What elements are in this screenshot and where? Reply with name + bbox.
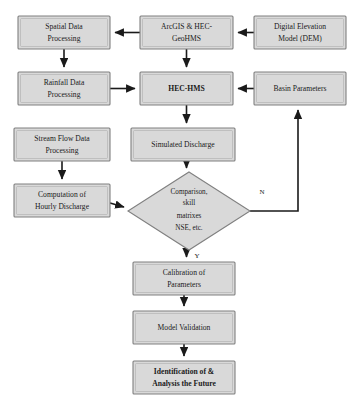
decision-label-line: skill <box>183 199 195 207</box>
node-spatial-data-processing[interactable]: Spatial Data Processing <box>18 16 110 49</box>
flowchart-diagram: Spatial Data Processing ArcGIS & HEC- Ge… <box>0 0 359 409</box>
flowchart-canvas: Spatial Data Processing ArcGIS & HEC- Ge… <box>0 0 359 409</box>
node-basin-parameters[interactable]: Basin Parameters <box>254 72 346 105</box>
edge-label-no: N <box>259 188 264 196</box>
nodes-layer: Spatial Data Processing ArcGIS & HEC- Ge… <box>14 16 346 394</box>
node-arcgis-hec-geohms[interactable]: ArcGIS & HEC- GeoHMS <box>140 16 233 49</box>
node-simulated-discharge[interactable]: Simulated Discharge <box>131 128 235 161</box>
node-stream-flow-data-processing[interactable]: Stream Flow Data Processing <box>14 128 110 161</box>
node-label-line: Simulated Discharge <box>151 140 215 149</box>
node-label-line: Processing <box>46 146 79 155</box>
node-digital-elevation-model[interactable]: Digital Elevation Model (DEM) <box>254 16 346 49</box>
node-label-line: Computation of <box>38 190 86 199</box>
node-label-line: Analysis the Future <box>152 379 216 388</box>
node-identification-analysis-future[interactable]: Identification of & Analysis the Future <box>133 361 235 394</box>
node-label-line: Processing <box>48 90 81 99</box>
node-label-line: Parameters <box>167 280 201 289</box>
decision-label-line: matrixes <box>177 212 202 220</box>
node-label-line: Stream Flow Data <box>34 134 90 143</box>
node-label-line: Processing <box>48 34 81 43</box>
node-comparison-decision[interactable]: Comparison, skill matrixes NSE, etc. <box>128 172 250 250</box>
decision-label-line: NSE, etc. <box>175 224 203 232</box>
node-model-validation[interactable]: Model Validation <box>133 311 235 344</box>
node-label-line: Hourly Discharge <box>35 202 90 211</box>
node-label-line: HEC-HMS <box>168 84 204 93</box>
decision-label-line: Comparison, <box>171 188 208 196</box>
edge-label-yes: Y <box>194 252 199 260</box>
edge-decision-no-feedback <box>250 110 298 211</box>
node-label-line: ArcGIS & HEC- <box>161 22 213 31</box>
node-computation-of-hourly-discharge[interactable]: Computation of Hourly Discharge <box>14 184 110 217</box>
node-rainfall-data-processing[interactable]: Rainfall Data Processing <box>18 72 110 105</box>
node-label-line: Rainfall Data <box>44 78 85 87</box>
edge-computation-to-decision <box>110 203 124 207</box>
node-label-line: Calibration of <box>163 268 206 277</box>
node-label-line: Spatial Data <box>45 22 83 31</box>
node-hec-hms[interactable]: HEC-HMS <box>140 72 233 105</box>
node-calibration-of-parameters[interactable]: Calibration of Parameters <box>133 262 235 295</box>
node-label-line: GeoHMS <box>172 34 201 43</box>
node-label-line: Model Validation <box>158 323 211 332</box>
node-label-line: Digital Elevation <box>274 22 326 31</box>
node-label-line: Model (DEM) <box>278 34 322 43</box>
node-label-line: Identification of & <box>154 367 214 376</box>
node-label-line: Basin Parameters <box>274 84 327 93</box>
